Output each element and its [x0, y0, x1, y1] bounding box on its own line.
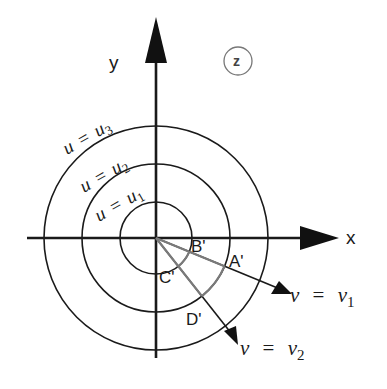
- label-point-a: A': [229, 252, 244, 271]
- y-axis-label: y: [109, 52, 119, 73]
- point-labels: B' A' C' D': [159, 237, 244, 329]
- x-axis-arrowhead-icon: [300, 226, 339, 250]
- v-rays: [156, 238, 280, 333]
- ray-label-v2: v = v2: [240, 336, 305, 363]
- label-point-b: B': [191, 237, 206, 256]
- x-axis-label: x: [346, 227, 356, 248]
- ray-v2-arrowhead-icon: [224, 326, 238, 345]
- x-axis: [27, 226, 339, 250]
- z-plane-diagram: B' A' C' D' x y z u = u3 u = u2 u = u1 v: [0, 0, 387, 389]
- svg-text:u = u1: u = u1: [91, 181, 148, 228]
- ray-label-v1: v = v1: [290, 283, 355, 310]
- label-point-d: D': [186, 310, 202, 329]
- ray-v1-arrowhead-icon: [271, 281, 292, 294]
- plane-marker: z: [224, 47, 252, 75]
- label-point-c: C': [159, 268, 175, 287]
- circle-label-u1: u = u1: [91, 181, 148, 228]
- y-axis: [145, 17, 167, 358]
- plane-label: z: [233, 53, 240, 69]
- y-axis-arrowhead-icon: [145, 17, 167, 63]
